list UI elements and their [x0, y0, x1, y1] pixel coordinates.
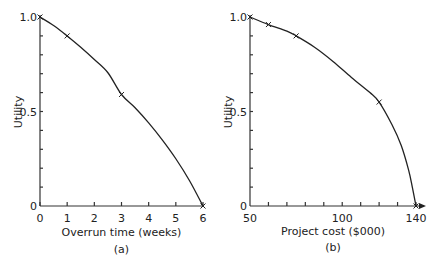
- data-point-marker: [294, 33, 299, 38]
- x-axis-label: Project cost ($000): [281, 225, 385, 238]
- x-tick-label: 50: [243, 212, 257, 225]
- y-tick-label: 1.0: [230, 11, 248, 24]
- x-tick-label: 140: [406, 212, 427, 225]
- data-point-marker: [119, 92, 124, 97]
- panel-caption: (b): [325, 241, 341, 254]
- x-tick-label: 6: [200, 212, 207, 225]
- utility-charts: 1.00.500123456Overrun time (weeks)Utilit…: [0, 0, 441, 267]
- chart-panel-a: 1.00.500123456Overrun time (weeks)Utilit…: [12, 11, 207, 256]
- x-axis-label: Overrun time (weeks): [62, 226, 182, 239]
- axis-arrow-icon: [419, 203, 426, 209]
- panel-caption: (a): [114, 243, 129, 256]
- y-axis-label: Utility: [222, 95, 235, 128]
- utility-curve: [40, 17, 203, 206]
- y-tick-label: 1.0: [20, 11, 38, 24]
- data-point-marker: [65, 33, 70, 38]
- x-tick-label: 2: [91, 212, 98, 225]
- data-point-marker: [377, 100, 382, 105]
- x-tick-label: 5: [172, 212, 179, 225]
- chart-panel-b: 1.00.5050100140Project cost ($000)Utilit…: [222, 11, 427, 254]
- y-axis-label: Utility: [12, 95, 25, 128]
- x-tick-label: 0: [37, 212, 44, 225]
- x-tick-label: 4: [145, 212, 152, 225]
- x-tick-label: 100: [332, 212, 353, 225]
- x-tick-label: 3: [118, 212, 125, 225]
- utility-curve: [250, 17, 416, 206]
- x-tick-label: 1: [64, 212, 71, 225]
